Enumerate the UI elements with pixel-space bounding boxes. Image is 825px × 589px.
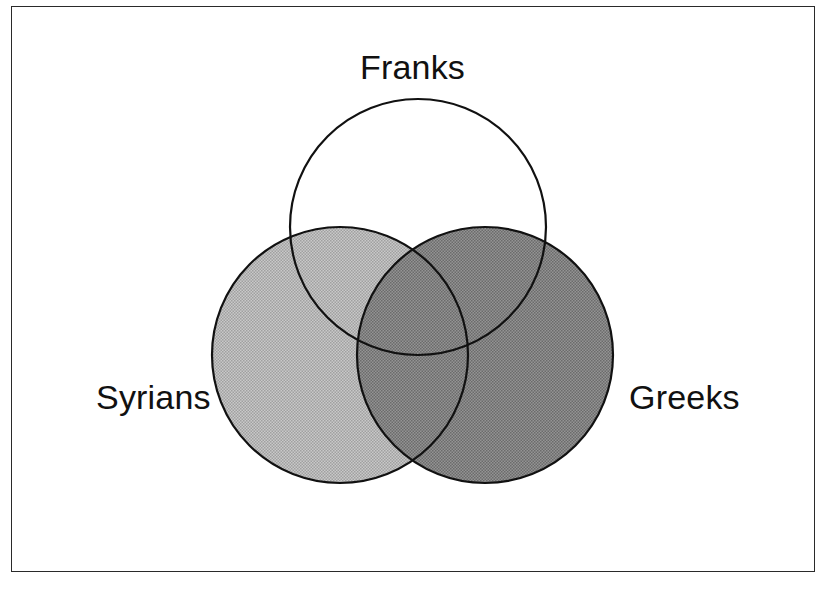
venn-diagram-figure: Franks Syrians Greeks — [0, 0, 825, 589]
set-circle-greeks-fill — [357, 227, 613, 483]
set-label-franks: Franks — [0, 50, 825, 84]
venn-canvas — [0, 0, 825, 589]
set-label-syrians: Syrians — [96, 380, 211, 414]
set-label-greeks: Greeks — [629, 380, 740, 414]
